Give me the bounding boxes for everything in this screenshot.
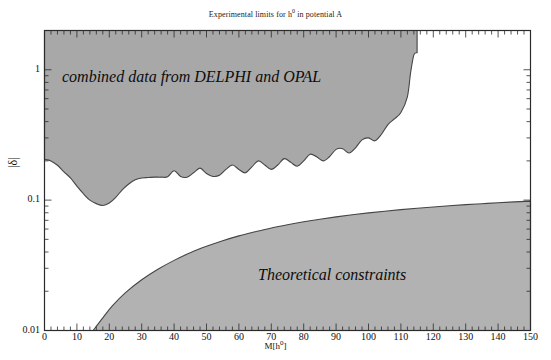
x-axis-label-suffix: ] xyxy=(284,341,287,351)
combined-data-label: combined data from DELPHI and OPAL xyxy=(62,68,321,86)
figure-container: Experimental limits for h0 in potential … xyxy=(0,0,551,360)
x-axis-label: M[h0] xyxy=(0,339,551,351)
y-axis-label: |δ| xyxy=(6,158,21,168)
x-axis-label-prefix: M[h xyxy=(265,341,281,351)
x-axis-tick-labels: 0102030405060708090100110120130140150 xyxy=(0,0,551,360)
theoretical-constraints-label: Theoretical constraints xyxy=(258,266,406,284)
